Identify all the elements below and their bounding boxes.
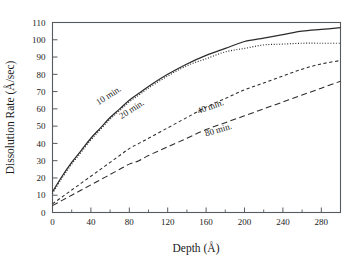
- y-tick-label: 80: [37, 70, 47, 80]
- curve-20-min: [53, 43, 341, 193]
- x-tick-label: 80: [125, 217, 135, 227]
- x-tick-label: 160: [199, 217, 213, 227]
- y-tick-label: 90: [37, 52, 47, 62]
- x-axis-ticks: 04080120160200240280: [50, 208, 340, 227]
- data-curves: [53, 28, 341, 206]
- y-axis-ticks: 0102030405060708090100110: [32, 18, 58, 218]
- x-tick-label: 200: [238, 217, 252, 227]
- y-tick-label: 40: [37, 139, 47, 149]
- x-tick-label: 280: [315, 217, 329, 227]
- y-tick-label: 110: [32, 18, 46, 28]
- dissolution-rate-vs-depth-chart: 0102030405060708090100110 04080120160200…: [0, 0, 356, 268]
- y-tick-label: 60: [37, 104, 47, 114]
- y-tick-label: 30: [37, 156, 47, 166]
- x-tick-label: 0: [50, 217, 55, 227]
- y-tick-label: 20: [37, 173, 47, 183]
- x-tick-label: 40: [86, 217, 96, 227]
- curve-label-80-min: 80 min.: [204, 121, 233, 139]
- y-tick-label: 100: [32, 35, 46, 45]
- curve-label-40-min: 40 min.: [196, 97, 225, 116]
- x-axis-title: Depth (Å): [173, 241, 220, 255]
- curve-label-10-min: 10 min.: [94, 84, 123, 107]
- y-axis-title: Dissolution Rate (Å/sec): [3, 60, 17, 174]
- y-tick-label: 50: [37, 121, 47, 131]
- y-tick-label: 70: [37, 87, 47, 97]
- y-tick-label: 10: [37, 190, 47, 200]
- x-tick-label: 120: [161, 217, 175, 227]
- y-tick-label: 0: [41, 208, 46, 218]
- chart-figure: 0102030405060708090100110 04080120160200…: [0, 0, 356, 268]
- plot-frame: [53, 23, 341, 213]
- curve-label-20-min: 20 min.: [117, 98, 146, 121]
- x-tick-label: 240: [276, 217, 290, 227]
